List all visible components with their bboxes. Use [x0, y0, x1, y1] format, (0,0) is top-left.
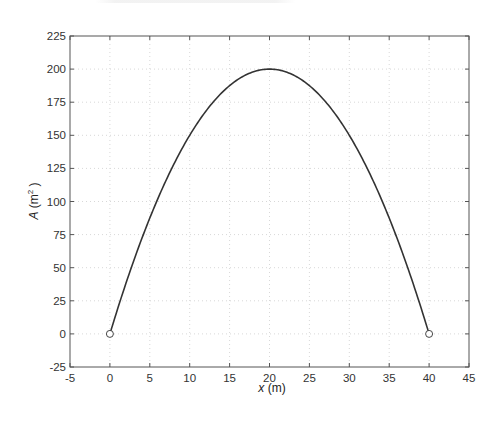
plot-frame [70, 36, 469, 367]
open-circle-marker [426, 330, 433, 337]
x-tick-label: 35 [383, 372, 396, 384]
x-tick-label: 45 [463, 372, 476, 384]
y-tick-label: 125 [47, 162, 66, 174]
x-tick-label: 40 [423, 372, 436, 384]
y-tick-label: 25 [53, 295, 66, 307]
x-tick-label: 30 [343, 372, 356, 384]
y-tick-label: 50 [53, 262, 66, 274]
x-tick-label: 15 [223, 372, 236, 384]
y-tick-label: -25 [49, 361, 66, 373]
x-tick-label: 25 [303, 372, 316, 384]
axis-ticks [70, 36, 469, 367]
x-axis-label: x (m) [257, 381, 285, 395]
x-tick-label: 10 [183, 372, 196, 384]
x-tick-label: -5 [65, 372, 75, 384]
y-tick-labels: -250255075100125150175200225 [47, 30, 66, 373]
x-tick-label: 5 [147, 372, 153, 384]
x-tick-label: 0 [107, 372, 113, 384]
y-tick-label: 150 [47, 129, 66, 141]
y-tick-label: 175 [47, 96, 66, 108]
grid-lines [70, 36, 469, 367]
y-tick-label: 75 [53, 229, 66, 241]
open-circle-marker [106, 330, 113, 337]
y-tick-label: 200 [47, 63, 66, 75]
y-tick-label: 225 [47, 30, 66, 42]
y-tick-label: 0 [60, 328, 66, 340]
area-chart: -5051015202530354045 -250255075100125150… [0, 0, 497, 429]
y-tick-label: 100 [47, 196, 66, 208]
y-axis-label: A (m2 ) [26, 182, 41, 220]
